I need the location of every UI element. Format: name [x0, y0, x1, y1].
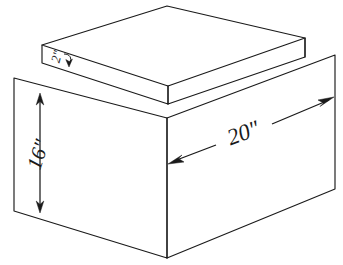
isometric-box-drawing: 16" 20" 2": [0, 0, 343, 265]
technical-drawing-figure: 16" 20" 2": [0, 0, 343, 265]
